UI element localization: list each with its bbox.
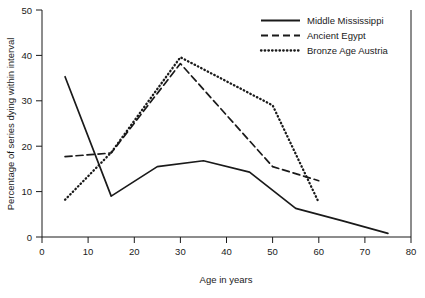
- chart-container: 0 10 20 30 40 50 0 10 20 30 40 50: [0, 0, 425, 298]
- x-tick-label: 0: [39, 246, 44, 257]
- y-axis-ticks: [36, 10, 42, 237]
- x-tick-label: 10: [83, 246, 94, 257]
- y-axis-tick-labels: 0 10 20 30 40 50: [21, 5, 32, 243]
- x-tick-label: 20: [129, 246, 140, 257]
- legend-label: Bronze Age Austria: [307, 45, 389, 56]
- series-group: [65, 57, 388, 233]
- x-tick-label: 30: [175, 246, 186, 257]
- y-tick-label: 50: [21, 5, 32, 16]
- x-tick-label: 60: [314, 246, 325, 257]
- y-tick-label: 20: [21, 141, 32, 152]
- legend-item-bronze-age-austria: Bronze Age Austria: [261, 45, 389, 56]
- legend-label: Middle Mississippi: [307, 15, 384, 26]
- legend-item-middle-mississippi: Middle Mississippi: [261, 15, 384, 26]
- legend: Middle Mississippi Ancient Egypt Bronze …: [261, 15, 389, 56]
- y-tick-label: 30: [21, 95, 32, 106]
- x-axis-ticks: [42, 237, 411, 243]
- x-tick-label: 80: [406, 246, 417, 257]
- x-axis-title: Age in years: [200, 274, 253, 285]
- y-tick-label: 40: [21, 50, 32, 61]
- x-tick-label: 70: [360, 246, 371, 257]
- legend-label: Ancient Egypt: [307, 30, 366, 41]
- y-axis-title: Percentage of series dying within interv…: [5, 38, 16, 211]
- y-tick-label: 0: [27, 232, 32, 243]
- series-line-middle-mississippi: [65, 77, 388, 234]
- series-line-bronze-age-austria: [65, 57, 319, 202]
- legend-item-ancient-egypt: Ancient Egypt: [261, 30, 366, 41]
- line-chart: 0 10 20 30 40 50 0 10 20 30 40 50: [0, 0, 425, 298]
- x-tick-label: 50: [267, 246, 278, 257]
- x-tick-label: 40: [221, 246, 232, 257]
- y-tick-label: 10: [21, 186, 32, 197]
- x-axis-tick-labels: 0 10 20 30 40 50 60 70 80: [39, 246, 416, 257]
